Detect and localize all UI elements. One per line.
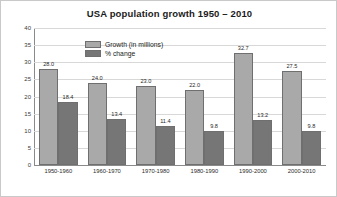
bar-value-label: 23.0 [129, 78, 163, 84]
bar-value-label: 9.8 [197, 123, 231, 129]
bar-value-label: 13.4 [100, 111, 134, 117]
gridline [34, 165, 326, 166]
y-axis-tick-label: 35 [5, 42, 31, 48]
bar-group: 32.713.2 [234, 28, 273, 165]
x-axis-tick-label: 1970-1980 [131, 168, 180, 174]
y-axis-tick-label: 25 [5, 76, 31, 82]
chart-legend: Growth (in millions)% change [85, 41, 163, 57]
bar-value-label: 22.0 [178, 82, 212, 88]
bar-value-label: 13.2 [246, 112, 280, 118]
bar-pct-change: 13.4 [107, 119, 126, 165]
chart-title: USA population growth 1950 – 2010 [1, 8, 337, 19]
bar-value-label: 32.7 [226, 45, 260, 51]
bar-pct-change: 13.2 [253, 120, 272, 165]
x-axis-tick-label: 1950-1960 [34, 168, 83, 174]
bar-value-label: 18.4 [51, 94, 85, 100]
y-axis-tick-label: 30 [5, 59, 31, 65]
x-axis-tick-label: 1980-1990 [180, 168, 229, 174]
bar-growth: 28.0 [39, 69, 58, 165]
bar-pct-change: 18.4 [58, 102, 77, 165]
bar-growth: 23.0 [136, 86, 155, 165]
bar-group: 22.09.8 [185, 28, 224, 165]
bar-group: 27.59.8 [282, 28, 321, 165]
bar-value-label: 24.0 [80, 75, 114, 81]
y-axis-tick-label: 0 [5, 162, 31, 168]
plot-area: 28.018.424.013.423.011.422.09.832.713.22… [34, 28, 326, 165]
x-axis-tick-label: 1990-2000 [229, 168, 278, 174]
bar-value-label: 9.8 [294, 123, 328, 129]
bar-value-label: 27.5 [275, 63, 309, 69]
bar-value-label: 11.4 [148, 118, 182, 124]
legend-label: Growth (in millions) [105, 41, 163, 48]
bar-pct-change: 11.4 [156, 126, 175, 165]
bar-growth: 32.7 [234, 53, 253, 165]
y-axis-tick-label: 20 [5, 94, 31, 100]
bar-pct-change: 9.8 [302, 131, 321, 165]
y-axis-tick-label: 10 [5, 128, 31, 134]
bar-growth: 27.5 [282, 71, 301, 165]
bar-value-label: 28.0 [32, 61, 66, 67]
y-axis-tick-labels: 0510152025303540 [1, 28, 31, 165]
legend-swatch-icon [85, 41, 101, 48]
legend-label: % change [105, 50, 135, 57]
x-axis-tick-labels: 1950-19601960-19701970-19801980-19901990… [34, 168, 326, 182]
bar-group: 28.018.4 [39, 28, 78, 165]
bar-growth: 24.0 [88, 83, 107, 165]
y-axis-tick-label: 15 [5, 111, 31, 117]
chart-card: USA population growth 1950 – 2010 051015… [0, 0, 337, 197]
x-axis-tick-label: 2000-2010 [277, 168, 326, 174]
bars-layer: 28.018.424.013.423.011.422.09.832.713.22… [34, 28, 326, 165]
y-axis-tick-label: 40 [5, 25, 31, 31]
y-axis-tick-label: 5 [5, 145, 31, 151]
legend-item[interactable]: Growth (in millions) [85, 41, 163, 48]
legend-item[interactable]: % change [85, 50, 163, 57]
bar-pct-change: 9.8 [204, 131, 223, 165]
legend-swatch-icon [85, 50, 101, 57]
x-axis-tick-label: 1960-1970 [83, 168, 132, 174]
